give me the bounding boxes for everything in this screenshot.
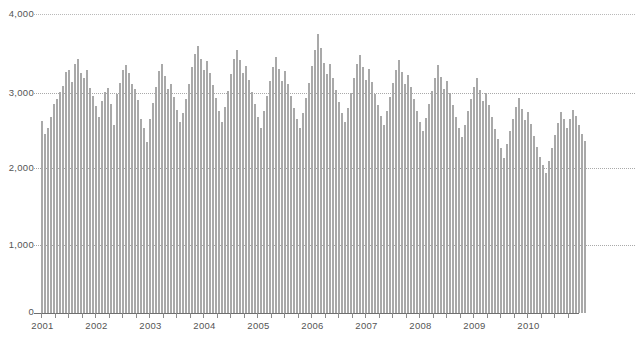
x-axis-tick — [41, 313, 42, 318]
bar — [464, 125, 466, 313]
bar — [53, 104, 55, 313]
bar — [395, 70, 397, 313]
bar — [170, 84, 172, 313]
bar — [278, 69, 280, 313]
x-axis-tick — [514, 313, 515, 318]
bar — [503, 158, 505, 313]
bar — [485, 93, 487, 313]
bar — [296, 119, 298, 313]
bar — [461, 137, 463, 313]
bar — [527, 112, 529, 313]
bar — [218, 111, 220, 313]
bar — [134, 89, 136, 313]
bar — [566, 128, 568, 313]
bar — [326, 74, 328, 313]
bar — [446, 81, 448, 313]
bar — [365, 80, 367, 313]
bar — [548, 161, 550, 313]
bar — [320, 48, 322, 313]
bar — [191, 67, 193, 313]
y-axis-label-0: 0 — [0, 306, 34, 317]
bar — [449, 93, 451, 313]
bar — [377, 105, 379, 313]
bar — [509, 131, 511, 313]
x-axis-tick — [406, 313, 407, 318]
x-axis-label-2008: 2008 — [409, 320, 431, 331]
x-axis-tick — [122, 313, 123, 318]
bar — [113, 125, 115, 313]
x-axis-tick — [244, 313, 245, 318]
bar — [401, 72, 403, 313]
bar — [179, 122, 181, 313]
bar — [245, 66, 247, 313]
bar — [56, 99, 58, 313]
bar — [293, 108, 295, 313]
bar — [500, 148, 502, 313]
bar — [47, 128, 49, 313]
bar — [542, 165, 544, 313]
y-axis-label-1000: 1,000 — [0, 239, 34, 250]
bar — [476, 78, 478, 313]
x-axis-label-2003: 2003 — [139, 320, 161, 331]
bar — [83, 78, 85, 313]
bar — [272, 67, 274, 313]
bar — [257, 117, 259, 313]
bar — [440, 77, 442, 313]
bar — [536, 147, 538, 313]
bar — [299, 128, 301, 313]
bar — [563, 119, 565, 313]
bar — [368, 69, 370, 313]
bar — [371, 82, 373, 313]
bar — [263, 111, 265, 313]
bar — [404, 84, 406, 313]
bar — [380, 116, 382, 313]
bar — [491, 117, 493, 313]
x-axis-tick — [136, 313, 137, 318]
x-axis-tick — [419, 313, 420, 318]
x-axis-tick — [95, 313, 96, 318]
bar — [104, 92, 106, 313]
x-axis-tick — [433, 313, 434, 318]
x-axis-tick — [190, 313, 191, 318]
x-axis-tick — [325, 313, 326, 318]
bar — [260, 128, 262, 313]
bar — [416, 111, 418, 313]
x-axis-tick — [284, 313, 285, 318]
bar — [584, 141, 586, 313]
x-axis-tick — [379, 313, 380, 318]
bar — [71, 82, 73, 313]
x-axis-tick — [446, 313, 447, 318]
bar — [137, 100, 139, 313]
x-axis-tick — [82, 313, 83, 318]
bar — [143, 128, 145, 313]
bar — [203, 70, 205, 313]
bar — [362, 67, 364, 313]
bar — [164, 76, 166, 313]
x-axis-tick — [527, 313, 528, 318]
bar — [494, 129, 496, 313]
x-axis-line — [34, 313, 579, 314]
x-axis-tick — [487, 313, 488, 318]
bar — [80, 73, 82, 313]
x-axis-tick — [541, 313, 542, 318]
bar — [275, 57, 277, 313]
x-axis-tick — [392, 313, 393, 318]
bar — [140, 119, 142, 313]
bar — [239, 60, 241, 313]
bar — [353, 78, 355, 313]
bar — [344, 122, 346, 313]
bar — [467, 111, 469, 313]
y-axis-label-4000: 4,000 — [0, 8, 34, 19]
x-axis-tick — [298, 313, 299, 318]
bar — [347, 108, 349, 313]
bar — [41, 121, 43, 313]
bar — [524, 120, 526, 313]
bar — [311, 66, 313, 313]
x-axis-tick — [460, 313, 461, 318]
x-axis-label-2002: 2002 — [85, 320, 107, 331]
bar — [515, 107, 517, 313]
bar — [62, 86, 64, 313]
bar — [551, 148, 553, 313]
bar — [290, 96, 292, 313]
bar — [314, 50, 316, 313]
